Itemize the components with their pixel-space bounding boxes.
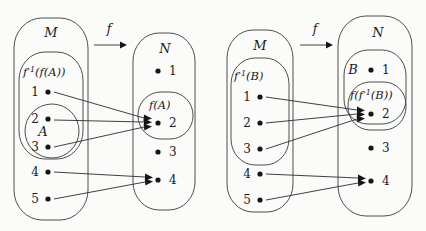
left-set-a-label: A <box>37 124 47 139</box>
right-domain-element-4-label: 4 <box>243 167 251 181</box>
fn-arg-glyph-r: (B) <box>246 69 263 83</box>
right-mapping-3-to-2 <box>266 116 365 149</box>
right-panel: M f-1(B) 1 2 3 4 5 f <box>227 16 412 216</box>
right-map-arrow: f <box>300 21 333 48</box>
left-domain-element-3-label: 3 <box>31 140 39 154</box>
left-map-label: f <box>106 21 114 36</box>
right-domain-element-1-dot <box>257 94 262 99</box>
left-domain-element-2-label: 2 <box>31 112 39 126</box>
left-panel: M f-1(f(A)) A 1 2 3 4 5 <box>14 18 195 220</box>
right-preimage-of-b-label: f-1(B) <box>233 69 264 83</box>
left-codomain-set-label: N <box>158 41 171 56</box>
right-mapping-5-to-4 <box>266 180 366 200</box>
left-codomain-element-3-dot <box>155 149 160 154</box>
right-domain-element-5-dot <box>257 197 262 202</box>
right-domain-element-3-dot <box>257 146 262 151</box>
right-domain-element-4-dot <box>257 171 262 176</box>
right-codomain-element-4-label: 4 <box>382 174 390 188</box>
left-domain-element-1-label: 1 <box>31 85 39 99</box>
left-mapping-arrows <box>54 92 153 199</box>
inner-exponent-glyph: -1 <box>363 88 371 97</box>
right-codomain-element-2-dot <box>368 111 373 116</box>
right-codomain-set-label: N <box>371 25 384 40</box>
left-domain-element-3-dot <box>45 144 50 149</box>
left-codomain-element-3-label: 3 <box>169 145 177 159</box>
right-codomain-element-1-label: 1 <box>382 63 390 77</box>
right-codomain-element-3-label: 3 <box>382 141 390 155</box>
right-domain-element-5-label: 5 <box>243 193 251 207</box>
left-domain-element-2-dot <box>45 116 50 121</box>
fn-exponent-glyph-r: -1 <box>238 69 246 78</box>
right-mapping-4-to-4 <box>266 174 366 182</box>
fn-exponent-glyph: -1 <box>27 65 35 74</box>
right-domain-element-3-label: 3 <box>243 142 251 156</box>
right-domain-element-2-label: 2 <box>243 116 251 130</box>
left-domain-set-boundary <box>14 18 88 220</box>
left-preimage-of-image-label: f-1(f(A)) <box>22 65 66 79</box>
left-domain-element-1-dot <box>45 89 50 94</box>
fn-arg-glyph: (f(A)) <box>35 65 66 79</box>
right-codomain-element-3-dot <box>368 145 373 150</box>
left-domain-element-4-dot <box>45 169 50 174</box>
right-domain-element-2-dot <box>257 120 262 125</box>
left-mapping-1-to-2 <box>54 92 152 121</box>
left-domain-element-5-dot <box>45 196 50 201</box>
figure-canvas: M f-1(f(A)) A 1 2 3 4 5 <box>0 0 426 231</box>
set-mapping-diagram: M f-1(f(A)) A 1 2 3 4 5 <box>0 0 426 231</box>
right-domain-element-1-label: 1 <box>243 90 251 104</box>
left-domain-set-label: M <box>43 25 58 40</box>
left-codomain-element-4-label: 4 <box>169 173 177 187</box>
left-codomain-set-boundary <box>133 33 195 210</box>
image-arg-glyph: (A) <box>153 98 170 112</box>
left-codomain-element-4-dot <box>155 177 160 182</box>
left-codomain-element-1-dot <box>155 68 160 73</box>
left-codomain-element-2-label: 2 <box>169 116 177 130</box>
inner-arg-glyph: (B)) <box>371 88 393 102</box>
right-mapping-arrows <box>266 97 366 200</box>
right-codomain-element-4-dot <box>368 178 373 183</box>
right-set-b-label: B <box>347 62 358 77</box>
left-mapping-2-to-2 <box>54 119 152 126</box>
left-domain-element-5-label: 5 <box>31 192 39 206</box>
left-mapping-3-to-2 <box>54 124 152 147</box>
right-map-label: f <box>312 21 320 36</box>
left-codomain-element-1-label: 1 <box>169 64 177 78</box>
right-codomain-element-1-dot <box>368 67 373 72</box>
left-mapping-4-to-4 <box>54 172 153 181</box>
right-codomain-set-boundary <box>338 16 412 216</box>
left-mapping-5-to-4 <box>54 179 153 199</box>
right-image-of-preimage-label: f(f-1(B)) <box>349 88 393 102</box>
svg-text:f-1(f(A)): f-1(f(A)) <box>22 65 66 79</box>
right-domain-set-label: M <box>252 38 267 53</box>
left-image-of-a-label: f(A) <box>148 98 171 112</box>
left-codomain-element-2-dot <box>155 120 160 125</box>
left-map-arrow: f <box>94 21 127 48</box>
right-codomain-element-2-label: 2 <box>382 107 390 121</box>
left-domain-element-4-label: 4 <box>31 165 39 179</box>
